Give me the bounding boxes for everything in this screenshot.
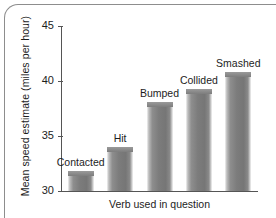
x-axis-title: Verb used in question (61, 198, 258, 210)
y-tick-mark (58, 191, 63, 192)
bar-slot: Collided (186, 26, 212, 191)
bar-slot: Contacted (68, 26, 94, 191)
bar-label: Bumped (140, 88, 179, 99)
bar[interactable] (147, 102, 173, 191)
y-tick-label: 30 (32, 185, 54, 196)
bar-label: Contacted (57, 157, 105, 168)
bar-label: Hit (114, 133, 127, 144)
bar[interactable] (225, 72, 251, 191)
y-axis-title: Mean speed estimate (miles per hour) (19, 11, 31, 201)
y-tick-label: 40 (32, 75, 54, 86)
bar-label: Collided (180, 75, 218, 86)
plot-area: 45403530 Mean speed estimate (miles per … (0, 0, 276, 218)
bar[interactable] (107, 147, 133, 191)
bar-slot: Hit (107, 26, 133, 191)
y-tick-label: 35 (32, 130, 54, 141)
bar-slot: Bumped (147, 26, 173, 191)
bar-slot: Smashed (225, 26, 251, 191)
x-axis-line (61, 191, 258, 192)
y-tick-label: 45 (32, 20, 54, 31)
bar[interactable] (186, 89, 212, 191)
bar-series: ContactedHitBumpedCollidedSmashed (61, 26, 258, 191)
bar-label: Smashed (216, 58, 260, 69)
bar[interactable] (68, 171, 94, 191)
figure-container: 45403530 Mean speed estimate (miles per … (0, 0, 276, 218)
